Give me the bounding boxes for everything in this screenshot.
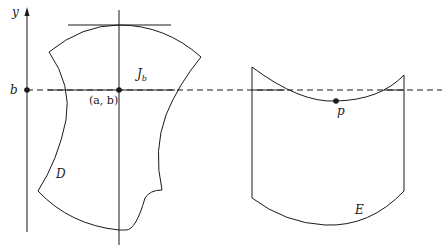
point-b-on-axis <box>24 87 30 93</box>
jb-label: Jb <box>137 68 147 83</box>
point-p-label: p <box>337 105 345 117</box>
region-d-label: D <box>56 168 66 180</box>
y-axis-label: y <box>12 6 19 18</box>
jb-label-sub: b <box>142 74 147 83</box>
point-p <box>333 98 339 104</box>
region-e-label: E <box>355 204 364 216</box>
diagram-svg <box>0 0 445 251</box>
b-axis-label: b <box>10 84 18 96</box>
region-e-boundary <box>252 67 404 225</box>
point-a-b <box>116 87 122 93</box>
diagram-canvas: y b (a, b) Jb D p E <box>0 0 445 251</box>
y-axis-arrow-icon <box>25 7 30 16</box>
point-a-b-label: (a, b) <box>89 95 118 106</box>
